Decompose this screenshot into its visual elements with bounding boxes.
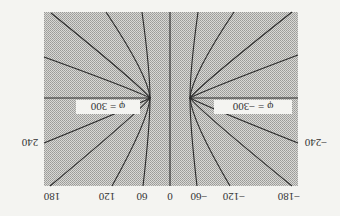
equipotential-diagram: φ = 300 φ = −300 240 −240 180 120 60 0 −… bbox=[0, 0, 340, 216]
tick-120: 120 bbox=[98, 191, 115, 203]
tick-180: 180 bbox=[43, 191, 60, 203]
tick-neg120: −120 bbox=[222, 191, 245, 203]
phi-right-label: φ = −300 bbox=[232, 101, 273, 113]
tick-60: 60 bbox=[136, 191, 148, 203]
label-240: 240 bbox=[21, 137, 38, 149]
tick-neg60: −60 bbox=[190, 191, 208, 203]
label-neg240: −240 bbox=[304, 137, 327, 149]
tick-neg180: −180 bbox=[277, 191, 300, 203]
tick-0: 0 bbox=[167, 191, 173, 203]
phi-left-label: φ = 300 bbox=[90, 101, 125, 113]
